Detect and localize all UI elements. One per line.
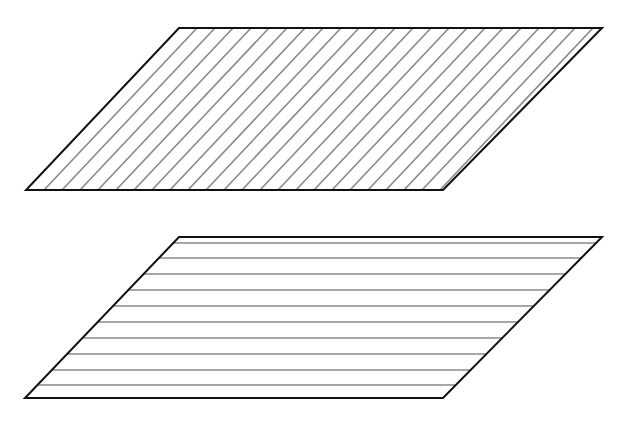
horizontal-hatch-lines: [0, 243, 627, 385]
parallelogram-diagram: [0, 0, 627, 424]
diagonal-hatched-parallelogram: [26, 28, 602, 190]
horizontal-hatched-parallelogram: [0, 237, 627, 398]
diagonal-hatch-lines: [44, 28, 593, 190]
parallelogram-outline-bottom: [25, 237, 602, 398]
